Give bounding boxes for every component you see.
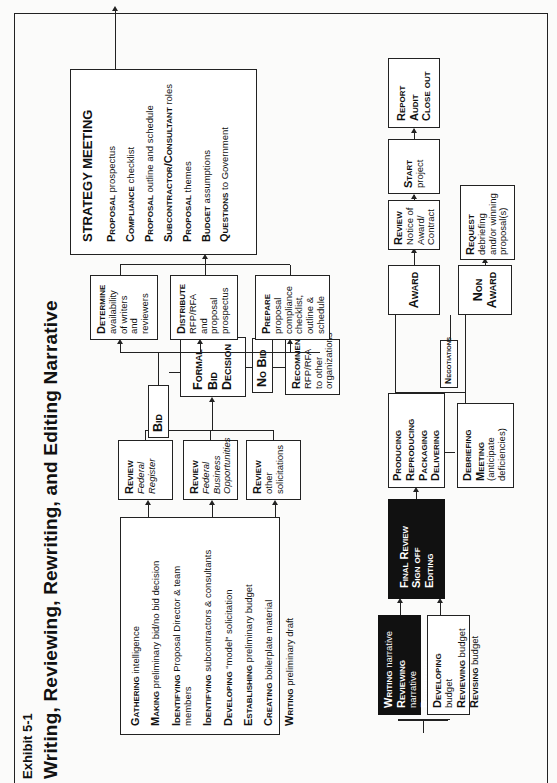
review-notice-box: Review Notice of Award/ Contract — [388, 200, 440, 250]
prep-item: Developing “model” solicitation — [222, 526, 235, 726]
prep-item: Identifying subcontractors & consultants — [201, 526, 214, 726]
debriefing-meeting-box: Debriefing Meeting (anticipate deficienc… — [457, 403, 514, 488]
start-project-box: Start project — [388, 139, 440, 194]
award-box: Award — [388, 265, 440, 315]
strategy-meeting-box: STRATEGY MEETING Proposal prospectus Com… — [70, 69, 257, 255]
budget-box: Developing budget Reviewing budget Revis… — [427, 615, 470, 715]
prep-item: Creating boilerplate material — [262, 526, 275, 726]
formal-bid-decision-box: Formal Bid Decision — [180, 337, 246, 397]
no-bid-box: No Bid — [252, 338, 273, 393]
exhibit-title: Writing, Reviewing, Rewriting, and Editi… — [40, 300, 62, 779]
strategy-meeting-heading: STRATEGY MEETING — [81, 82, 96, 242]
prep-item: Making preliminary bid/no bid decision — [149, 526, 162, 726]
preparation-list-box: Gathering intelligence Making preliminar… — [120, 517, 280, 735]
determine-box: Determine availability of writers and re… — [90, 275, 158, 340]
negotiations-box: Negotiations — [440, 340, 458, 388]
exhibit-page: Exhibit 5-1 Writing, Reviewing, Rewritin… — [0, 0, 557, 783]
bid-box: Bid — [148, 385, 169, 438]
final-review-box: Final Review Sign off Editing — [388, 499, 445, 599]
report-audit-close-box: Report Audit Close out — [388, 58, 440, 128]
exhibit-number: Exhibit 5-1 — [20, 713, 35, 779]
prep-item: Establishing preliminary budget — [242, 526, 255, 726]
producing-box: Producing Reproducing Packaging Deliveri… — [388, 393, 445, 488]
writing-narrative-box: Writing narrative Reviewing narrative Re… — [378, 615, 421, 715]
recommend-box: Recommend RFP/RFA to other organizations — [285, 339, 340, 395]
request-debriefing-box: Request debriefing and/or winning propos… — [460, 185, 515, 260]
review-other-solicitations-box: Review other solicitations — [246, 440, 301, 500]
prepare-box: Prepare proposal compliance checklist, o… — [255, 275, 330, 340]
prep-item: Gathering intelligence — [129, 526, 142, 726]
prep-item: Writing preliminary draft — [283, 526, 296, 726]
review-fbo-box: Review Federal Business Opportunities — [183, 440, 238, 500]
review-federal-register-box: Review Federal Register — [118, 440, 173, 500]
non-award-box: Non Award — [458, 265, 512, 315]
prep-item: Identifying Proposal Director & team mem… — [170, 526, 194, 726]
distribute-box: Distribute RFP/RFA and proposal prospect… — [170, 275, 238, 340]
